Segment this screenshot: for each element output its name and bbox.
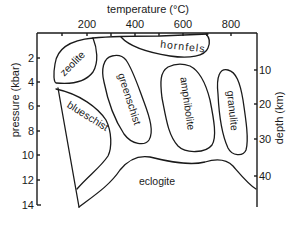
temp-tick-400: 400 [126,18,144,30]
pressure-tick-4: 4 [28,76,34,88]
pressure-tick-10: 10 [22,149,34,161]
facies-label-hornfels: hornfels [160,38,206,55]
pressure-axis-title: pressure (kbar) [9,63,21,138]
temp-tick-800: 800 [222,18,240,30]
temp-tick-200: 200 [78,18,96,30]
blueschist-boundary [56,89,111,189]
temp-tick-600: 600 [174,18,192,30]
depth-tick-10: 10 [259,64,271,76]
pressure-tick-14: 14 [22,199,34,211]
facies-label-amphibolite: amphibolite [178,76,197,131]
pressure-tick-8: 8 [28,125,34,137]
depth-tick-20: 20 [259,98,271,110]
facies-label-greenschist: greenschist [116,71,144,126]
depth-tick-40: 40 [259,170,271,182]
facies-label-zeolite: zeolite [57,48,87,78]
pressure-tick-12: 12 [22,174,34,186]
pressure-tick-2: 2 [28,52,34,64]
temperature-axis-title: temperature (°C) [107,3,189,15]
facies-label-eclogite: eclogite [139,175,175,187]
zeolite-top-boundary [93,34,208,38]
facies-diagram: temperature (°C) 200 400 600 800 2 4 6 8 [0,0,295,227]
facies-label-granulite: granulite [225,90,241,131]
depth-axis-title: depth (km) [273,92,285,145]
pressure-tick-6: 6 [28,100,34,112]
depth-tick-30: 30 [259,133,271,145]
